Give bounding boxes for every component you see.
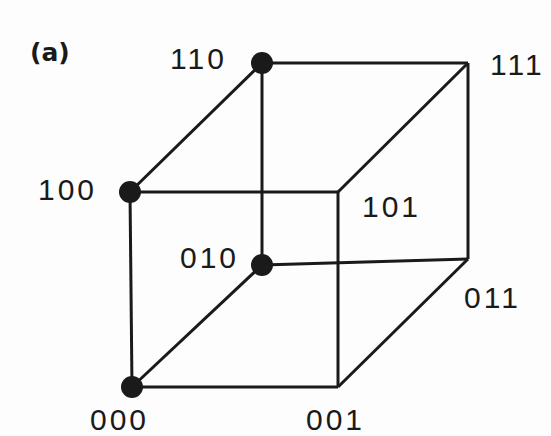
cube-edge [338,63,468,192]
vertex-label-110: 110 [170,44,227,74]
vertex-label-001: 001 [306,405,365,435]
vertex-label-000: 000 [90,405,149,435]
vertex-label-010: 010 [180,243,239,273]
panel-label: (a) [30,40,70,65]
vertex-label-100: 100 [38,175,97,205]
cube-edge [130,192,132,387]
cube-vertex-node [251,254,273,276]
cube-vertex-node [119,181,141,203]
cube-edge [130,63,262,192]
cube-edge [132,265,262,387]
vertex-label-101: 101 [362,192,421,222]
cube-edges-group [130,63,468,387]
cube-diagram [0,0,551,436]
figure-container: (a) 110111100101010011000001 [0,0,551,436]
cube-edge [338,259,468,387]
cube-nodes-group [119,52,273,398]
vertex-label-011: 011 [464,283,521,313]
vertex-label-111: 111 [490,50,545,80]
cube-edge [262,259,468,265]
cube-vertex-node [121,376,143,398]
cube-vertex-node [251,52,273,74]
